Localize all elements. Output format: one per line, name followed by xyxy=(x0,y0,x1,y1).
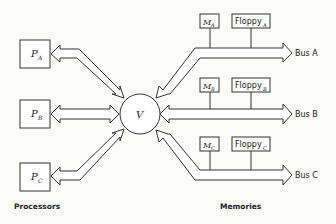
bus-a-label: Bus A xyxy=(295,49,318,58)
memory-c: M C xyxy=(200,137,219,170)
svg-text:C: C xyxy=(38,177,43,184)
hub-v: V xyxy=(120,94,160,134)
svg-text:Floppy: Floppy xyxy=(235,140,262,149)
bus-b-label: Bus B xyxy=(295,110,318,119)
diagram: P A P B P C V M A Floppy A Bus A M B xyxy=(0,0,336,224)
processor-c: P C xyxy=(20,163,50,191)
processor-a-label: P xyxy=(30,48,38,59)
bus-c-label: Bus C xyxy=(295,171,318,180)
processor-b-label: P xyxy=(30,108,38,119)
svg-text:A: A xyxy=(262,22,267,28)
svg-text:B: B xyxy=(210,86,215,92)
svg-text:C: C xyxy=(263,145,267,151)
memory-a: M A xyxy=(200,14,219,48)
svg-text:B: B xyxy=(262,86,267,92)
svg-text:B: B xyxy=(37,114,43,121)
floppy-c: Floppy C xyxy=(232,137,270,170)
caption-memories: Memories xyxy=(220,202,262,211)
bus-b-arrow xyxy=(160,104,292,124)
svg-text:Floppy: Floppy xyxy=(235,81,262,90)
link-pb-v xyxy=(51,105,119,123)
svg-text:A: A xyxy=(210,22,215,28)
memory-b: M B xyxy=(200,78,219,109)
link-pc-v xyxy=(51,129,124,185)
bus-c-arrow xyxy=(156,130,292,185)
svg-text:A: A xyxy=(37,54,43,61)
svg-text:Floppy: Floppy xyxy=(235,17,262,26)
processor-b: P B xyxy=(20,100,50,128)
processor-a: P A xyxy=(20,40,50,68)
diagram-canvas: P A P B P C V M A Floppy A Bus A M B xyxy=(0,0,336,224)
processor-c-label: P xyxy=(30,171,38,182)
bus-a-arrow xyxy=(156,43,292,98)
floppy-a: Floppy A xyxy=(232,14,270,48)
link-pa-v xyxy=(51,45,124,98)
caption-processors: Processors xyxy=(14,202,61,211)
svg-text:C: C xyxy=(211,145,215,151)
floppy-b: Floppy B xyxy=(232,78,270,109)
